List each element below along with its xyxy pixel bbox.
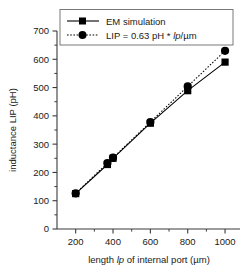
x-tick-label: 200 (68, 236, 84, 247)
data-point-circle (72, 189, 80, 197)
y-tick-label: 600 (33, 54, 49, 65)
y-tick-label: 200 (33, 167, 49, 178)
x-tick-label: 800 (180, 236, 196, 247)
legend-label-lip-formula: LIP = 0.63 pH * lp/µm (106, 30, 197, 41)
data-point-circle (221, 47, 229, 55)
y-axis-title: inductance LIP (pH) (7, 88, 18, 172)
x-axis-ticks (76, 229, 225, 234)
series-line-0 (76, 62, 225, 194)
y-tick-label: 100 (33, 195, 49, 206)
x-tick-label: 400 (105, 236, 121, 247)
y-tick-label: 300 (33, 139, 49, 150)
y-tick-label: 500 (33, 82, 49, 93)
x-tick-label: 600 (142, 236, 158, 247)
chart-plot-area: 0100200300400500600700 2004006008001000 … (0, 0, 245, 275)
circle-marker-icon (79, 31, 87, 39)
y-tick-label: 0 (44, 223, 49, 234)
y-tick-label: 700 (33, 25, 49, 36)
legend-label-em-simulation: EM simulation (106, 16, 166, 27)
x-axis-tick-labels: 2004006008001000 (68, 236, 236, 247)
square-marker-icon (79, 18, 86, 25)
x-tick-label: 1000 (214, 236, 235, 247)
chart-figure: 0100200300400500600700 2004006008001000 … (0, 0, 245, 275)
data-point-square (221, 59, 228, 66)
x-axis-title: length lp of internal port (µm) (88, 254, 210, 265)
chart-legend: EM simulation LIP = 0.63 pH * lp/µm (60, 10, 233, 46)
axis-lines (57, 31, 240, 229)
y-tick-label: 400 (33, 110, 49, 121)
data-point-circle (146, 118, 154, 126)
data-point-circle (184, 82, 192, 90)
data-point-circle (109, 154, 117, 162)
y-axis-tick-labels: 0100200300400500600700 (33, 25, 49, 234)
